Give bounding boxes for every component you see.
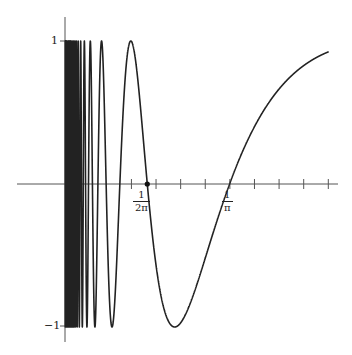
annotation-numerator: 1 [136, 190, 146, 200]
x-annotation-1-over-2pi: 1 2π [133, 190, 150, 213]
marked-point-1-over-2pi [145, 181, 150, 186]
x-annotation-1-over-pi: 1 π [222, 190, 233, 213]
sin-inverse-x-plot [0, 0, 352, 355]
annotation-denominator: π [222, 203, 233, 213]
annotation-denominator: 2π [133, 203, 150, 213]
y-tick-label-1: 1 [51, 34, 58, 47]
y-tick-label-neg1: −1 [44, 319, 60, 332]
annotation-numerator: 1 [222, 190, 232, 200]
